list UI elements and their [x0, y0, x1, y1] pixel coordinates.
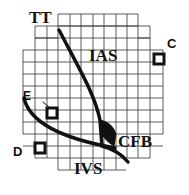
- label-ias: IAS: [89, 47, 117, 64]
- label-c: C: [167, 37, 176, 50]
- marker-c: [154, 54, 164, 64]
- label-d: D: [13, 145, 22, 158]
- label-e: E: [23, 90, 31, 102]
- label-ivs: IVS: [74, 160, 102, 177]
- label-cfb: CFB: [118, 133, 152, 150]
- marker-d: [35, 143, 45, 153]
- marker-e: [47, 108, 57, 118]
- label-tt: TT: [29, 9, 52, 26]
